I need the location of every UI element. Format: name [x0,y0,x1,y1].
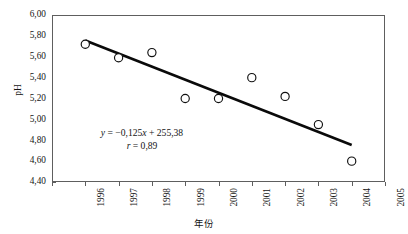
x-tick-mark [185,182,186,186]
x-tick-mark [85,182,86,186]
equation-intercept: 255,38 [157,127,183,138]
x-tick-mark [285,182,286,186]
r-equals: = [130,140,140,151]
x-tick-mark [219,182,220,186]
equation-plus: + [147,127,157,138]
data-point [348,157,356,165]
x-tick-mark [252,182,253,186]
x-tick-mark [385,182,386,186]
data-point [248,74,256,82]
data-point [281,92,289,100]
data-point [81,40,89,48]
correlation-coefficient: r = 0,89 [52,139,232,152]
r-value: 0,89 [141,140,158,151]
data-point [148,48,156,56]
x-tick-mark [352,182,353,186]
data-point [314,120,322,128]
equation-slope: −0,125 [115,127,142,138]
data-point [115,54,123,62]
x-tick-mark [52,182,53,186]
chart-figure: pH 4,404,604,805,005,205,405,605,806,00 … [0,0,408,234]
equation-equals: = [105,127,115,138]
x-tick-mark [119,182,120,186]
regression-equation: y = −0,125x + 255,38 [52,126,232,139]
x-tick-mark [318,182,319,186]
regression-annotation: y = −0,125x + 255,38 r = 0,89 [52,126,232,152]
x-axis-title: 年份 [0,216,408,230]
data-point [181,94,189,102]
data-point [214,94,222,102]
x-tick-mark [152,182,153,186]
